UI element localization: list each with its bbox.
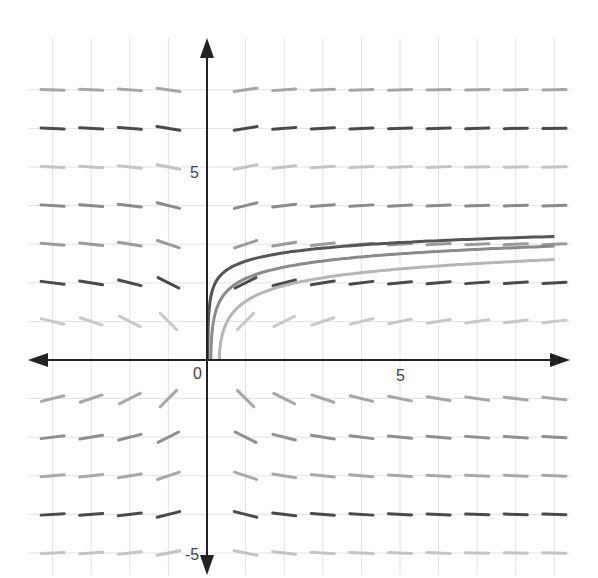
tick-labels: 0 5 5 -5 bbox=[185, 164, 405, 563]
slope-segment bbox=[311, 128, 334, 129]
slope-segment bbox=[504, 282, 527, 283]
slope-segment bbox=[118, 552, 141, 554]
slope-segment bbox=[273, 242, 296, 246]
slope-segment bbox=[543, 244, 566, 245]
slope-segment bbox=[41, 205, 64, 206]
solution-curves bbox=[208, 237, 555, 361]
slope-segment bbox=[311, 243, 334, 246]
slope-segment bbox=[273, 204, 296, 207]
slope-segment bbox=[504, 475, 527, 476]
slope-segment bbox=[80, 435, 103, 439]
slope-segment bbox=[466, 514, 489, 515]
slope-segment bbox=[427, 475, 450, 476]
slope-segment bbox=[350, 475, 373, 477]
slope-segment bbox=[311, 166, 334, 168]
slope-segment bbox=[80, 281, 103, 285]
slope-segment bbox=[543, 475, 566, 476]
slope-segment bbox=[80, 243, 103, 246]
slope-segment bbox=[118, 242, 141, 246]
slope-segment bbox=[504, 514, 527, 515]
slope-segment bbox=[504, 397, 527, 400]
slope-segment bbox=[466, 244, 489, 245]
slope-segment bbox=[388, 514, 411, 515]
axes bbox=[28, 38, 570, 575]
slope-segment bbox=[388, 475, 411, 477]
slope-segment bbox=[41, 281, 64, 284]
slope-segment bbox=[350, 436, 373, 439]
slope-segment bbox=[543, 553, 566, 554]
slope-segment bbox=[311, 552, 334, 554]
x-tick-label-5: 5 bbox=[396, 367, 405, 384]
slope-segment bbox=[118, 166, 141, 168]
slope-segment bbox=[350, 552, 373, 553]
slope-segment bbox=[41, 89, 64, 90]
slope-segment bbox=[504, 436, 527, 437]
slope-segment bbox=[41, 552, 64, 553]
grid-lines bbox=[28, 38, 570, 575]
slope-segment bbox=[273, 166, 296, 168]
slope-segment bbox=[350, 89, 373, 90]
slope-segment bbox=[427, 514, 450, 515]
slope-segment bbox=[388, 282, 411, 284]
slope-segment bbox=[118, 474, 141, 478]
slope-segment bbox=[504, 167, 527, 168]
slope-segment bbox=[427, 282, 450, 284]
slope-segment bbox=[41, 128, 64, 129]
x-axis-right-arrow-icon bbox=[550, 353, 570, 367]
slope-segment bbox=[311, 205, 334, 207]
slope-segment bbox=[504, 320, 527, 323]
slope-segment bbox=[388, 89, 411, 90]
y-tick-label-neg5: -5 bbox=[185, 546, 199, 563]
slope-segment bbox=[466, 205, 489, 206]
slope-segment bbox=[427, 205, 450, 206]
slope-segment bbox=[504, 244, 527, 245]
slope-segment bbox=[504, 205, 527, 206]
slope-segment bbox=[311, 475, 334, 478]
slope-segment bbox=[41, 436, 64, 439]
slope-segment bbox=[157, 126, 180, 130]
slope-segment bbox=[543, 514, 566, 515]
slope-field-plot: 0 5 5 -5 bbox=[0, 0, 598, 578]
slope-segment bbox=[388, 167, 411, 168]
slope-segment bbox=[80, 89, 103, 90]
slope-segment bbox=[427, 167, 450, 168]
slope-segment bbox=[350, 128, 373, 129]
x-axis-left-arrow-icon bbox=[28, 353, 48, 367]
slope-segment bbox=[504, 553, 527, 554]
slope-segment bbox=[311, 89, 334, 90]
y-tick-label-5: 5 bbox=[190, 164, 199, 181]
slope-segment bbox=[118, 127, 141, 129]
slope-segment bbox=[388, 205, 411, 206]
slope-segment bbox=[80, 552, 103, 554]
slope-segment bbox=[118, 513, 141, 516]
slope-segment bbox=[427, 128, 450, 129]
slope-segment bbox=[157, 88, 180, 91]
slope-segment bbox=[41, 475, 64, 477]
slope-segment bbox=[427, 553, 450, 554]
slope-segment bbox=[273, 513, 296, 516]
slope-segment bbox=[350, 205, 373, 206]
slope-segment bbox=[427, 397, 450, 401]
slope-segment bbox=[427, 436, 450, 438]
slope-segment bbox=[427, 244, 450, 245]
slope-segment bbox=[80, 513, 103, 515]
slope-segment bbox=[311, 435, 334, 439]
slope-segment bbox=[273, 127, 296, 129]
slope-segment bbox=[41, 243, 64, 245]
slope-segment bbox=[388, 553, 411, 554]
y-axis-up-arrow-icon bbox=[200, 38, 214, 58]
slope-segment bbox=[311, 281, 334, 285]
slope-segment bbox=[234, 126, 257, 130]
slope-segment bbox=[466, 475, 489, 476]
slope-segment bbox=[350, 166, 373, 167]
slope-segment bbox=[80, 205, 103, 207]
slope-segment bbox=[543, 205, 566, 206]
slope-segment bbox=[543, 437, 566, 438]
slope-segment bbox=[466, 436, 489, 438]
slope-segment bbox=[41, 166, 64, 167]
slope-segment bbox=[543, 167, 566, 168]
slope-segment bbox=[118, 89, 141, 91]
slope-segment bbox=[427, 319, 450, 323]
slope-segment bbox=[388, 436, 411, 438]
slope-segment bbox=[466, 167, 489, 168]
